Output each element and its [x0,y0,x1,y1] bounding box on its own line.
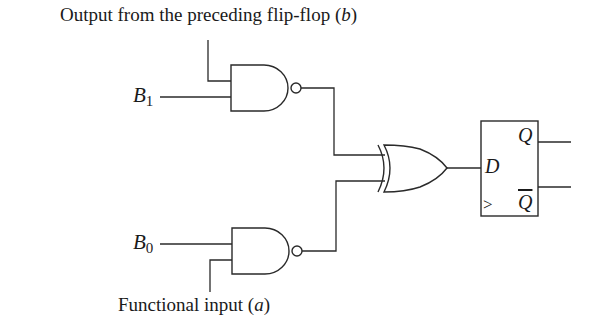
label-functional-input: Functional input (a) [118,294,270,316]
label-preceding-flip-flop-output: Output from the preceding flip-flop (b) [60,4,357,26]
clock-input-icon: > [483,195,493,215]
pin-label-q-bar: Q [518,191,532,214]
pin-label-d: D [485,155,499,178]
label-var-b: b [341,4,351,25]
nand-gate-upper [231,65,288,111]
label-b1-base: B [133,83,146,107]
label-var-a: a [254,294,264,315]
label-b1: B1 [133,83,153,108]
pin-label-q: Q [518,124,532,147]
nand-bubble-upper [291,83,301,93]
label-b0: B0 [133,230,153,255]
xor-gate [384,145,447,192]
wire-nand-lower-to-xor [302,181,385,251]
wire-preceding-ff-input [208,40,231,81]
label-text: Functional input ( [118,294,254,315]
label-b0-sub: 0 [146,240,154,256]
wire-functional-input [210,260,232,292]
circuit-wiring [0,0,603,323]
label-text: Output from the preceding flip-flop ( [60,4,341,25]
label-b1-sub: 1 [146,93,154,109]
nand-gate-lower [232,228,289,274]
wire-nand-upper-to-xor [301,88,385,155]
label-close-paren: ) [264,294,270,315]
label-b0-base: B [133,230,146,254]
xor-extra-input-arc [378,145,384,192]
logic-circuit-diagram: Output from the preceding flip-flop (b) … [0,0,603,323]
label-close-paren: ) [351,4,357,25]
nand-bubble-lower [292,246,302,256]
